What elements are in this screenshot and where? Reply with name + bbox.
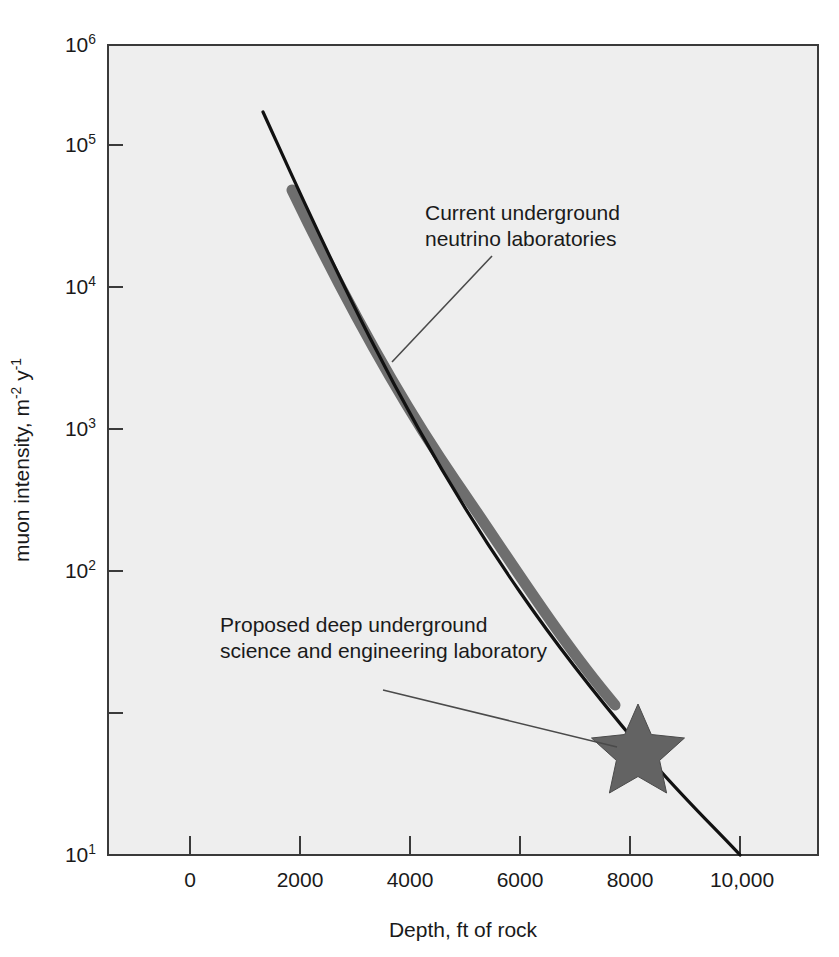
y-axis-label-exp1: -2 [8,387,24,399]
y-axis-label-exp2: -1 [8,358,24,370]
chart-figure: 106 105 104 103 102 101 0 2000 4000 6000… [0,0,839,957]
x-tick-label-10000: 10,000 [710,869,774,890]
x-tick-label-4000: 4000 [387,869,434,890]
annotation-proposed-lab-line1: Proposed deep underground [220,612,547,638]
annotation-proposed-lab: Proposed deep underground science and en… [220,612,547,663]
x-tick-label-0: 0 [184,869,196,890]
annotation-current-labs-line1: Current underground [425,200,620,226]
y-axis-label: muon intensity, m-2 y-1 [10,358,34,562]
chart-canvas [0,0,839,957]
x-tick-label-2000: 2000 [277,869,324,890]
plot-background [108,45,818,855]
annotation-current-labs: Current underground neutrino laboratorie… [425,200,620,251]
x-tick-label-8000: 8000 [607,869,654,890]
x-axis-label: Depth, ft of rock [389,918,537,942]
y-axis-label-base: muon intensity, m [10,399,33,562]
y-axis-label-mid: y [10,370,33,386]
annotation-current-labs-line2: neutrino laboratories [425,226,620,252]
x-tick-label-6000: 6000 [497,869,544,890]
annotation-proposed-lab-line2: science and engineering laboratory [220,638,547,664]
